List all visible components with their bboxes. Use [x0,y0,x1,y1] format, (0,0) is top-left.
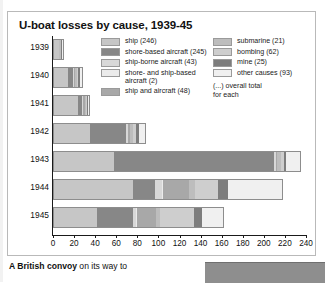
bar-segment [54,180,133,199]
bar-segment [114,152,274,171]
x-tick [243,235,244,238]
bar-segment [286,152,300,171]
stacked-bar-1942[interactable] [53,123,146,144]
bar-segment [137,208,156,227]
x-tick [201,235,202,238]
bar-segment [90,124,126,143]
bar-segment [54,152,114,171]
x-tick-label: 0 [51,239,56,248]
year-label-1943: 1943 [19,154,49,164]
x-tick [116,235,117,238]
x-tick-label: 60 [112,239,121,248]
chart-title: U-boat losses by cause, 1939-45 [19,19,192,31]
year-label-1940: 1940 [19,70,49,80]
x-tick [306,235,307,238]
caption-lead: A British convoy [9,261,77,271]
bar-segment [195,180,218,199]
x-tick-label: 120 [173,239,187,248]
bar-segment [62,40,63,59]
x-tick [137,235,138,238]
bar-row-1943: 1943 [19,150,307,171]
x-tick-label: 180 [236,239,250,248]
x-tick [158,235,159,238]
bar-segment [80,68,82,87]
stacked-bar-1944[interactable] [53,179,283,200]
bar-segment [54,68,68,87]
x-tick [180,235,181,238]
bar-segment [139,124,144,143]
x-tick-label: 40 [91,239,100,248]
stacked-bar-1945[interactable] [53,207,224,228]
photo-thumbnail [205,262,325,283]
chart-panel: U-boat losses by cause, 1939-45 ship (24… [7,11,316,256]
year-label-1939: 1939 [19,42,49,52]
bar-segment [202,208,223,227]
x-tick [285,235,286,238]
page-edge [0,0,3,282]
bar-segment [160,208,194,227]
bar-segment [194,208,201,227]
x-tick-label: 20 [70,239,79,248]
bar-segment [163,180,189,199]
bar-segment [54,124,90,143]
x-tick-label: 240 [299,239,313,248]
x-tick-label: 220 [278,239,292,248]
x-tick-label: 80 [133,239,142,248]
year-label-1944: 1944 [19,182,49,192]
bar-segment [54,208,97,227]
x-tick-label: 160 [215,239,229,248]
bar-segment [88,96,89,115]
stacked-bar-1940[interactable] [53,67,83,88]
x-tick-label: 140 [194,239,208,248]
stacked-bar-1943[interactable] [53,151,301,172]
x-tick [222,235,223,238]
bar-row-1941: 1941 [19,94,307,115]
bar-row-1944: 1944 [19,178,307,199]
x-tick [95,235,96,238]
figure-caption: A British convoy on its way to [9,261,189,272]
year-label-1941: 1941 [19,98,49,108]
x-tick [53,235,54,238]
x-tick [74,235,75,238]
bar-row-1940: 1940 [19,66,307,87]
year-label-1945: 1945 [19,210,49,220]
bar-segment [228,180,282,199]
bar-row-1939: 1939 [19,38,307,59]
bar-row-1942: 1942 [19,122,307,143]
x-tick [264,235,265,238]
x-tick-label: 200 [257,239,271,248]
year-label-1942: 1942 [19,126,49,136]
bar-segment [133,180,155,199]
bar-segment [218,180,227,199]
bar-segment [97,208,133,227]
x-tick-label: 100 [152,239,166,248]
plot-area: 1939194019411942194319441945020406080100… [19,36,307,248]
caption-rest: on its way to [77,261,127,271]
bar-segment [54,96,78,115]
bar-row-1945: 1945 [19,206,307,227]
stacked-bar-1941[interactable] [53,95,90,116]
stacked-bar-1939[interactable] [53,39,64,60]
